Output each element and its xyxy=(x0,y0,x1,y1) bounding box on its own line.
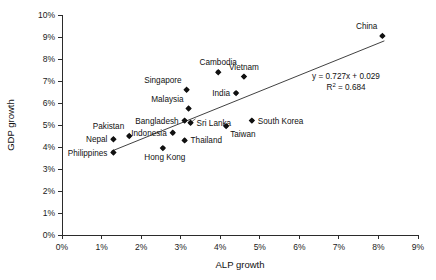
data-point-marker-core xyxy=(188,121,192,125)
data-point-label: South Korea xyxy=(258,117,304,126)
data-point-marker-core xyxy=(216,70,220,74)
regression-annotation: y = 0.727x + 0.029R2 = 0.684 xyxy=(312,72,380,92)
data-point-label: Pakistan xyxy=(93,122,125,131)
data-point-label: Malaysia xyxy=(151,95,184,104)
y-tick-label: 0% xyxy=(43,230,56,240)
regression-r-squared: R2 = 0.684 xyxy=(326,82,366,92)
data-point-marker-core xyxy=(380,34,384,38)
y-tick-label: 2% xyxy=(43,186,56,196)
data-point-marker-core xyxy=(242,75,246,79)
x-tick-label: 0% xyxy=(56,242,69,252)
y-tick-label: 9% xyxy=(43,32,56,42)
data-point-label: India xyxy=(212,89,230,98)
data-point-marker-core xyxy=(183,119,187,123)
data-point-label: Taiwan xyxy=(230,130,256,139)
data-point-label: Bangladesh xyxy=(135,117,179,126)
y-tick-label: 6% xyxy=(43,98,56,108)
data-point-marker-core xyxy=(161,146,165,150)
data-point-label: Nepal xyxy=(86,135,108,144)
data-point-label: Singapore xyxy=(144,76,182,85)
data-point-label: Thailand xyxy=(191,136,223,145)
chart-plot-area: 0%1%2%3%4%5%6%7%8%9%10% 0%1%2%3%4%5%6%7%… xyxy=(0,0,436,280)
data-point-label: Indonesia xyxy=(131,129,167,138)
x-tick-label: 3% xyxy=(175,242,188,252)
y-axis: 0%1%2%3%4%5%6%7%8%9%10% xyxy=(38,10,62,240)
x-tick-label: 8% xyxy=(372,242,385,252)
data-point-label: Sri Lanka xyxy=(197,119,232,128)
y-tick-label: 1% xyxy=(43,208,56,218)
x-tick-label: 6% xyxy=(293,242,306,252)
x-tick-label: 5% xyxy=(254,242,267,252)
data-point-label: Philippines xyxy=(68,149,108,158)
y-tick-label: 3% xyxy=(43,164,56,174)
y-tick-label: 8% xyxy=(43,54,56,64)
y-axis-title: GDP growth xyxy=(5,99,16,151)
data-point-marker-core xyxy=(171,131,175,135)
data-point-label: China xyxy=(356,22,378,31)
x-tick-label: 7% xyxy=(333,242,346,252)
scatter-chart-container: 0%1%2%3%4%5%6%7%8%9%10% 0%1%2%3%4%5%6%7%… xyxy=(0,0,436,280)
data-point-label: Vietnam xyxy=(229,63,259,72)
data-point-marker-core xyxy=(250,119,254,123)
data-point-marker-core xyxy=(111,150,115,154)
x-tick-label: 4% xyxy=(214,242,227,252)
data-point-marker-core xyxy=(186,106,190,110)
data-point-marker-core xyxy=(183,138,187,142)
r-squared-value: = 0.684 xyxy=(336,83,366,92)
data-point-label: Hong Kong xyxy=(144,153,185,162)
data-point-marker-core xyxy=(234,91,238,95)
x-axis: 0%1%2%3%4%5%6%7%8%9% xyxy=(56,235,425,252)
y-tick-label: 7% xyxy=(43,76,56,86)
y-tick-label: 5% xyxy=(43,120,56,130)
data-point-marker-core xyxy=(185,88,189,92)
y-tick-label: 10% xyxy=(38,10,55,20)
x-tick-label: 9% xyxy=(412,242,425,252)
data-point-marker-core xyxy=(111,137,115,141)
x-axis-title: ALP growth xyxy=(216,259,265,270)
y-tick-label: 4% xyxy=(43,142,56,152)
x-tick-label: 1% xyxy=(95,242,108,252)
x-tick-label: 2% xyxy=(135,242,148,252)
regression-equation: y = 0.727x + 0.029 xyxy=(312,72,380,81)
